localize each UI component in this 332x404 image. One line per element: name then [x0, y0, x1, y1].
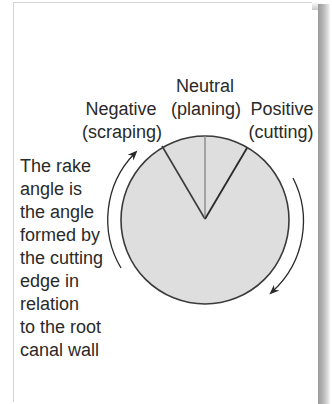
- description-line: canal wall: [20, 340, 99, 360]
- description-line: the cutting: [20, 248, 103, 268]
- description-line: angle is: [20, 179, 82, 199]
- description-line: the angle: [20, 202, 94, 222]
- negative-sublabel: (scraping): [82, 122, 162, 142]
- rake-angle-description: The rake angle is the angle formed by th…: [20, 156, 103, 360]
- description-line: The rake: [20, 156, 91, 176]
- positive-sublabel: (cutting): [248, 122, 313, 142]
- description-line: formed by: [20, 225, 100, 245]
- negative-label: Negative: [85, 99, 156, 119]
- description-line: to the root: [20, 317, 101, 337]
- description-line: edge in: [20, 271, 79, 291]
- neutral-sublabel: (planing): [171, 99, 241, 119]
- neutral-label: Neutral: [176, 76, 234, 96]
- description-line: relation: [20, 294, 79, 314]
- positive-label: Positive: [250, 99, 313, 119]
